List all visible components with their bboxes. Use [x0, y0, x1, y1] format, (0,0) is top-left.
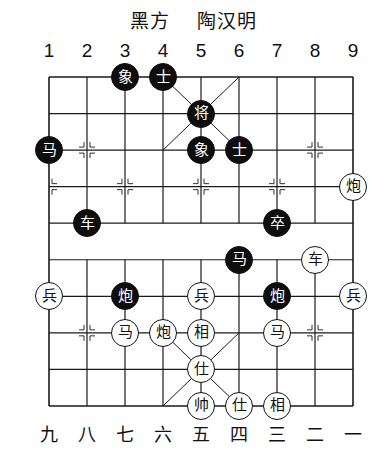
red-elephant-piece[interactable]: 相	[187, 319, 215, 347]
black-advisor-piece[interactable]: 士	[149, 63, 177, 91]
black-chariot-piece[interactable]: 车	[73, 209, 101, 237]
column-label: 二	[300, 420, 330, 446]
piece-label: 车	[308, 252, 323, 267]
column-label: 六	[148, 420, 178, 446]
red-cannon-piece[interactable]: 炮	[339, 173, 367, 201]
black-horse-piece[interactable]: 马	[35, 136, 63, 164]
black-soldier-piece[interactable]: 卒	[263, 209, 291, 237]
piece-label: 马	[118, 325, 133, 340]
piece-label: 马	[270, 325, 285, 340]
piece-label: 相	[194, 325, 209, 340]
red-advisor-piece[interactable]: 仕	[225, 392, 253, 420]
black-elephant-piece[interactable]: 象	[187, 136, 215, 164]
piece-label: 炮	[118, 289, 133, 304]
piece-label: 马	[232, 252, 247, 267]
piece-label: 将	[194, 106, 209, 121]
column-label: 五	[186, 420, 216, 446]
piece-label: 炮	[346, 179, 361, 194]
piece-label: 士	[156, 70, 171, 85]
column-label: 一	[338, 420, 368, 446]
red-cannon-piece[interactable]: 炮	[149, 319, 177, 347]
red-horse-piece[interactable]: 马	[111, 319, 139, 347]
piece-label: 仕	[194, 362, 209, 377]
black-general-piece[interactable]: 将	[187, 100, 215, 128]
column-label: 九	[34, 420, 64, 446]
red-general-piece[interactable]: 帅	[187, 392, 215, 420]
black-advisor-piece[interactable]: 士	[225, 136, 253, 164]
piece-label: 炮	[270, 289, 285, 304]
black-horse-piece[interactable]: 马	[225, 246, 253, 274]
xiangqi-board	[0, 0, 387, 455]
piece-label: 马	[42, 143, 57, 158]
red-chariot-piece[interactable]: 车	[301, 246, 329, 274]
piece-label: 仕	[232, 398, 247, 413]
piece-label: 炮	[156, 325, 171, 340]
column-labels-bottom: 九 八 七 六 五 四 三 二 一	[0, 420, 387, 444]
piece-label: 象	[118, 70, 133, 85]
piece-label: 象	[194, 143, 209, 158]
red-horse-piece[interactable]: 马	[263, 319, 291, 347]
piece-label: 兵	[194, 289, 209, 304]
column-label: 四	[224, 420, 254, 446]
piece-label: 相	[270, 398, 285, 413]
piece-label: 兵	[346, 289, 361, 304]
column-label: 七	[110, 420, 140, 446]
black-elephant-piece[interactable]: 象	[111, 63, 139, 91]
piece-label: 车	[80, 216, 95, 231]
column-label: 三	[262, 420, 292, 446]
column-label: 八	[72, 420, 102, 446]
piece-label: 帅	[194, 398, 209, 413]
piece-label: 士	[232, 143, 247, 158]
piece-label: 卒	[270, 216, 285, 231]
piece-label: 兵	[42, 289, 57, 304]
red-elephant-piece[interactable]: 相	[263, 392, 291, 420]
